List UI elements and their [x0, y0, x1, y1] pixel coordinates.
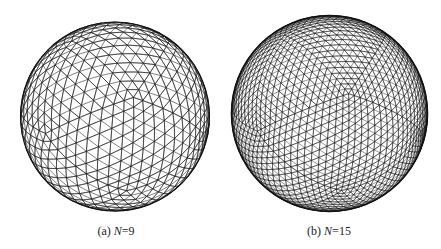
- sphere-mesh-figure: [0, 0, 441, 249]
- mesh-edges: [232, 16, 428, 212]
- caption-b-value: 15: [339, 224, 351, 238]
- caption-a-label: (a): [97, 224, 110, 238]
- sphere-mesh-n9: [21, 22, 210, 211]
- caption-a: (a) N=9: [97, 224, 134, 239]
- caption-a-value: 9: [129, 224, 135, 238]
- caption-b: (b) N=15: [307, 224, 351, 239]
- mesh-edges: [21, 22, 210, 211]
- caption-b-equals: =: [332, 224, 339, 238]
- sphere-mesh-n15: [232, 16, 428, 212]
- caption-b-variable: N: [324, 224, 332, 238]
- caption-b-label: (b): [307, 224, 321, 238]
